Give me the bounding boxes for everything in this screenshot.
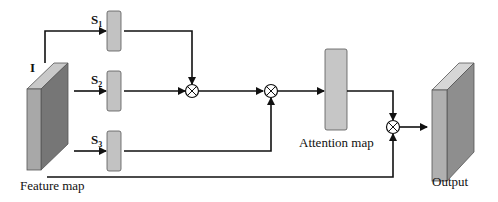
output-front-face <box>432 90 447 181</box>
edge-input-to-s1 <box>45 31 106 63</box>
attention-module-diagram: I Feature map S1 S2 S3 Attention map <box>0 0 498 202</box>
multiply-node-1 <box>186 85 199 98</box>
attention-map-label: Attention map <box>299 135 374 150</box>
s3-label: S3 <box>91 132 102 149</box>
edge-s1-to-mul1 <box>124 31 192 84</box>
output-block <box>432 63 474 181</box>
feature-map-front-face <box>27 89 41 170</box>
attention-map-box <box>325 49 347 130</box>
s1-label: S1 <box>91 12 102 29</box>
feature-map-block <box>27 63 68 170</box>
edge-s3-to-mul2 <box>124 98 271 151</box>
output-label: Output <box>432 174 469 189</box>
s3-box <box>107 131 121 171</box>
s1-box <box>107 11 121 51</box>
input-label: I <box>30 60 35 75</box>
s2-label: S2 <box>91 72 102 89</box>
multiply-node-3 <box>387 121 400 134</box>
edge-attention-to-mul3 <box>347 91 393 120</box>
feature-map-label: Feature map <box>20 178 85 193</box>
multiply-node-2 <box>265 85 278 98</box>
s2-box <box>107 71 121 111</box>
